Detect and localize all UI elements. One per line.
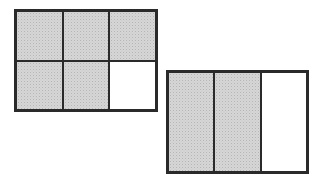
shaded-cell — [16, 11, 63, 61]
shaded-cell — [109, 11, 156, 61]
shaded-cell — [16, 61, 63, 111]
fraction-grid-two-thirds — [166, 70, 309, 174]
fraction-grid-five-sixths — [14, 9, 158, 112]
empty-cell — [261, 72, 307, 172]
shaded-cell — [63, 61, 110, 111]
empty-cell — [109, 61, 156, 111]
shaded-cell — [168, 72, 214, 172]
shaded-cell — [214, 72, 260, 172]
shaded-cell — [63, 11, 110, 61]
